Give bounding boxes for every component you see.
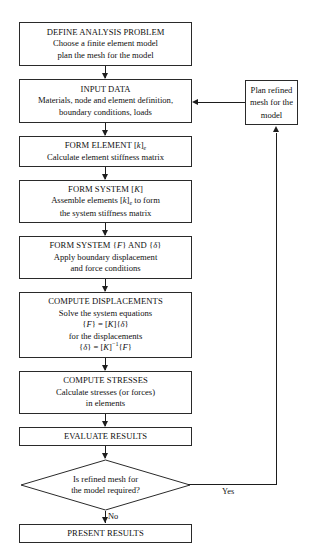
decision-line2: the model required? xyxy=(71,485,140,496)
node-compute-displacements-line2: Solve the system equations xyxy=(59,308,152,319)
node-plan-refined-line1: Plan refined xyxy=(251,84,293,97)
equation-delta-equals-k-inverse-force: {δ} = [K]−1{F} xyxy=(79,342,132,353)
node-compute-stresses-line3: in elements xyxy=(86,398,125,409)
node-evaluate-results-title: EVALUATE RESULTS xyxy=(64,431,147,442)
decision-text-group: Is refined mesh for the model required? xyxy=(20,459,191,511)
arrowhead-plan-refined-to-input xyxy=(192,99,198,105)
node-compute-stresses: COMPUTE STRESSES Calculate stresses (or … xyxy=(19,371,192,414)
edge-label-no: No xyxy=(108,512,118,522)
node-compute-displacements-title: COMPUTE DISPLACEMENTS xyxy=(48,296,162,307)
node-evaluate-results: EVALUATE RESULTS xyxy=(19,427,192,446)
node-form-system-fd-line3: and force conditions xyxy=(70,263,140,274)
node-form-element-title: FORM ELEMENT [k]e xyxy=(65,140,147,152)
node-form-system-force-displacement: FORM SYSTEM {F} AND {δ} Apply boundary d… xyxy=(19,236,192,279)
node-plan-refined-mesh: Plan refined mesh for the model xyxy=(245,80,298,125)
page-header-artifact xyxy=(28,0,278,7)
node-present-results-title: PRESENT RESULTS xyxy=(67,528,143,539)
node-compute-stresses-line2: Calculate stresses (or forces) xyxy=(56,387,155,398)
node-input-line2: Materials, node and element definition, xyxy=(38,95,173,106)
node-present-results: PRESENT RESULTS xyxy=(19,524,192,543)
edge-plan-refined-to-input xyxy=(198,102,245,103)
node-input-title: INPUT DATA xyxy=(80,84,130,95)
edge-yes-right-rail-vertical xyxy=(276,133,277,485)
node-compute-stresses-title: COMPUTE STRESSES xyxy=(63,375,148,386)
node-form-system-k-line3: the system stiffness matrix xyxy=(60,208,152,219)
node-form-system-k-line2: Assemble elements [k]e to form xyxy=(51,195,160,207)
flowchart-canvas: DEFINE ANALYSIS PROBLEM Choose a finite … xyxy=(0,0,314,544)
node-form-element-line2: Calculate element stiffness matrix xyxy=(47,152,164,163)
node-plan-refined-line2: mesh for the xyxy=(250,96,293,109)
decision-line1: Is refined mesh for xyxy=(73,474,138,485)
node-compute-displacements: COMPUTE DISPLACEMENTS Solve the system e… xyxy=(19,292,192,358)
node-form-system-stiffness: FORM SYSTEM [K] Assemble elements [k]e t… xyxy=(19,180,192,223)
node-form-system-fd-line2: Apply boundary displacement xyxy=(54,252,158,263)
node-decision-refined-mesh: Is refined mesh for the model required? xyxy=(20,459,191,511)
node-plan-refined-line3: model xyxy=(261,109,282,122)
edge-label-yes: Yes xyxy=(222,487,234,497)
node-input-data: INPUT DATA Materials, node and element d… xyxy=(19,79,192,123)
node-form-system-fd-title: FORM SYSTEM {F} AND {δ} xyxy=(50,240,162,251)
arrowhead-decision-no-to-present xyxy=(102,517,108,523)
node-compute-displacements-line4: for the displacements xyxy=(69,331,143,342)
node-define-analysis-problem: DEFINE ANALYSIS PROBLEM Choose a finite … xyxy=(19,22,192,66)
node-form-element: FORM ELEMENT [k]e Calculate element stif… xyxy=(19,136,192,167)
node-form-system-k-title: FORM SYSTEM [K] xyxy=(68,184,143,195)
edge-decision-yes-horizontal xyxy=(188,484,277,485)
node-define-line3: plan the mesh for the model xyxy=(57,50,153,61)
node-input-line3: boundary conditions, loads xyxy=(59,107,152,118)
node-define-title: DEFINE ANALYSIS PROBLEM xyxy=(47,27,165,38)
arrowhead-yes-into-plan-refined xyxy=(273,126,279,132)
equation-force-equals-k-delta: {F} = [K]{δ} xyxy=(82,319,128,330)
node-define-line2: Choose a finite element model xyxy=(53,38,158,49)
